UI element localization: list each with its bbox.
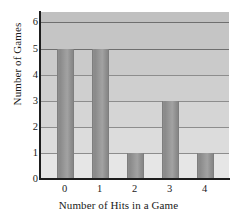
bar xyxy=(162,101,179,179)
y-tick-label: 6 xyxy=(22,17,38,27)
y-tick-label: 3 xyxy=(22,96,38,106)
bar xyxy=(57,49,74,179)
background-band xyxy=(40,22,229,48)
y-tick-label: 0 xyxy=(22,174,38,184)
y-tick-label: 2 xyxy=(22,122,38,132)
y-tick-label: 5 xyxy=(22,44,38,54)
x-tick-label: 2 xyxy=(123,183,147,195)
gridline xyxy=(40,22,229,23)
y-axis-spine xyxy=(39,11,41,180)
x-axis-spine xyxy=(39,178,230,180)
bar-chart-figure: Number of Games 0123456 01234 Number of … xyxy=(0,0,237,219)
x-tick-label: 1 xyxy=(88,183,112,195)
x-tick-label: 0 xyxy=(53,183,77,195)
x-axis-title: Number of Hits in a Game xyxy=(0,199,237,211)
bar xyxy=(197,153,214,179)
background-band xyxy=(40,12,229,22)
bar xyxy=(127,153,144,179)
x-tick-label: 3 xyxy=(158,183,182,195)
x-tick-label: 4 xyxy=(193,183,217,195)
plot-area xyxy=(40,12,229,179)
y-axis-tick-labels: 0123456 xyxy=(22,0,38,219)
y-tick-label: 4 xyxy=(22,70,38,80)
y-tick-label: 1 xyxy=(22,148,38,158)
x-axis-tick-labels: 01234 xyxy=(40,183,229,199)
bar xyxy=(92,49,109,179)
